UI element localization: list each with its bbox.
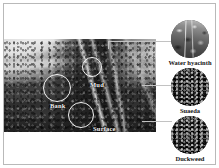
inset-item-duckweed: Duckweed [167, 116, 213, 163]
figure-root: Mud Bank Surface Water hyacinth [0, 0, 219, 168]
annotation-label-mud: Mud [90, 82, 104, 89]
scene-photograph: Mud Bank Surface [4, 39, 156, 132]
connector-line-water-hyacinth [108, 41, 172, 42]
inset-caption-duckweed: Duckweed [167, 155, 213, 163]
connector-tick-water-hyacinth [108, 41, 109, 49]
annotation-circle-bank [43, 74, 71, 102]
inset-caption-water-hyacinth: Water hyacinth [167, 59, 213, 67]
inset-panel: Water hyacinth Suaeda Duckweed [167, 20, 213, 160]
annotation-circle-mud [82, 57, 102, 77]
annotation-label-bank: Bank [50, 103, 66, 110]
annotation-label-surface: Surface [93, 126, 116, 132]
inset-item-suaeda: Suaeda [167, 68, 213, 115]
duckweed-thumbnail [171, 116, 209, 154]
suaeda-thumbnail [171, 68, 209, 106]
hyacinth-stem-highlights [171, 20, 209, 58]
suaeda-granular-texture [171, 68, 209, 106]
inset-item-water-hyacinth: Water hyacinth [167, 20, 213, 67]
water-hyacinth-thumbnail [171, 20, 209, 58]
annotation-circle-surface [68, 102, 94, 128]
duckweed-granular-texture [171, 116, 209, 154]
inset-caption-suaeda: Suaeda [167, 107, 213, 115]
